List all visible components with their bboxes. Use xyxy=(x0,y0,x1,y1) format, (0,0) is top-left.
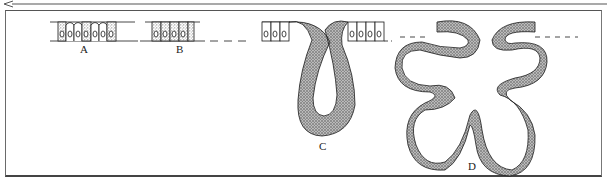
label-a: A xyxy=(80,43,88,55)
panel-d-branched-gland xyxy=(395,21,578,176)
panel-a-epithelium xyxy=(50,22,138,41)
panel-b-epithelium xyxy=(140,22,205,41)
gland-diagram xyxy=(0,0,607,188)
label-d: D xyxy=(468,160,476,172)
label-b: B xyxy=(176,43,183,55)
panel-c-tubular-gland xyxy=(210,21,392,136)
label-c: C xyxy=(319,140,326,152)
